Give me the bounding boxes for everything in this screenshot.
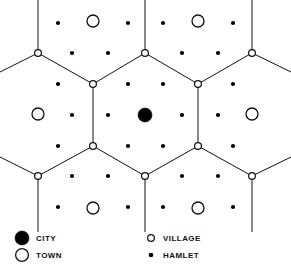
legend-item: TOWN bbox=[16, 249, 62, 262]
hamlet-marker bbox=[180, 174, 184, 178]
village-marker bbox=[90, 143, 97, 150]
legend-label: VILLAGE bbox=[163, 234, 201, 243]
hamlet-marker bbox=[106, 174, 110, 178]
hamlet-marker bbox=[161, 21, 165, 25]
diagram-page: CITYTOWNVILLAGEHAMLET bbox=[0, 0, 291, 269]
hamlet-marker bbox=[161, 144, 165, 148]
hamlet-marker bbox=[161, 205, 165, 209]
town-marker bbox=[192, 15, 204, 27]
hamlet-marker bbox=[231, 82, 235, 86]
legend-label: HAMLET bbox=[163, 251, 199, 260]
village-marker bbox=[35, 50, 42, 57]
city-marker bbox=[138, 108, 152, 122]
town-marker bbox=[32, 108, 44, 120]
village-marker bbox=[90, 81, 97, 88]
hamlet-marker bbox=[106, 51, 110, 55]
hamlet-marker bbox=[56, 82, 60, 86]
village-marker bbox=[249, 50, 256, 57]
hamlet-marker bbox=[216, 174, 220, 178]
town-marker bbox=[87, 202, 99, 214]
legend-village-icon bbox=[148, 235, 155, 242]
legend-label: TOWN bbox=[36, 251, 62, 260]
hamlet-marker bbox=[180, 51, 184, 55]
hamlet-marker bbox=[70, 113, 74, 117]
hamlet-marker bbox=[56, 205, 60, 209]
hamlet-marker bbox=[70, 51, 74, 55]
village-marker bbox=[249, 173, 256, 180]
city-marker-group bbox=[138, 108, 152, 122]
village-marker bbox=[35, 173, 42, 180]
hamlet-marker bbox=[56, 21, 60, 25]
legend-label: CITY bbox=[36, 234, 56, 243]
village-marker bbox=[195, 143, 202, 150]
central-place-diagram: CITYTOWNVILLAGEHAMLET bbox=[0, 0, 291, 269]
hamlet-marker bbox=[70, 174, 74, 178]
hamlet-marker bbox=[231, 144, 235, 148]
hamlet-marker bbox=[126, 144, 130, 148]
hamlet-marker bbox=[216, 113, 220, 117]
hamlet-marker bbox=[106, 113, 110, 117]
town-marker bbox=[246, 108, 258, 120]
legend-town-icon bbox=[16, 249, 29, 262]
hamlet-marker bbox=[231, 205, 235, 209]
town-marker bbox=[87, 15, 99, 27]
legend-hamlet-icon bbox=[149, 253, 154, 258]
legend-city-icon bbox=[15, 231, 29, 245]
hamlet-marker bbox=[161, 82, 165, 86]
village-marker bbox=[195, 81, 202, 88]
town-marker bbox=[192, 202, 204, 214]
hamlet-marker bbox=[231, 21, 235, 25]
hamlet-marker bbox=[56, 144, 60, 148]
hamlet-marker bbox=[126, 21, 130, 25]
hamlet-marker bbox=[180, 113, 184, 117]
hamlet-marker bbox=[126, 82, 130, 86]
village-marker bbox=[142, 173, 149, 180]
hamlet-marker bbox=[216, 51, 220, 55]
village-marker bbox=[142, 50, 149, 57]
hamlet-marker bbox=[126, 205, 130, 209]
